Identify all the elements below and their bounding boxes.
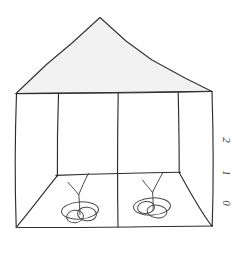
floor-diagonal-right [179, 173, 212, 226]
axis-tick-0: 0 [220, 196, 234, 210]
post-group [15, 92, 213, 228]
hanging-light-right-shade-inner [137, 200, 156, 214]
pavilion-sketch [0, 0, 240, 255]
post-left [57, 94, 58, 176]
roof-triangle [16, 18, 212, 94]
hanging-light-right-stem-a [143, 180, 153, 192]
post-center [118, 93, 119, 227]
hanging-light-left [61, 173, 99, 224]
floor-group [16, 173, 212, 228]
sketch-canvas: 2 1 0 [0, 0, 240, 255]
hanging-light-right-shade-bulb [146, 204, 167, 219]
post-far-left [15, 94, 16, 228]
hanging-light-left-stem-b [79, 173, 89, 194]
hanging-light-right-shade-main [133, 197, 171, 216]
hanging-light-left-shade-inner [66, 209, 85, 224]
roof-group [16, 18, 212, 94]
axis-tick-1: 1 [220, 166, 234, 180]
floor-front-edge [16, 226, 212, 228]
post-right [178, 93, 179, 174]
hanging-light-right [133, 172, 171, 219]
hanging-light-right-drop [153, 192, 154, 210]
axis-tick-2: 2 [220, 133, 234, 147]
hanging-light-right-stem-b [153, 172, 163, 192]
hanging-light-left-stem-a [68, 183, 78, 195]
floor-diagonal-left [17, 176, 58, 227]
post-far-right [212, 92, 213, 227]
